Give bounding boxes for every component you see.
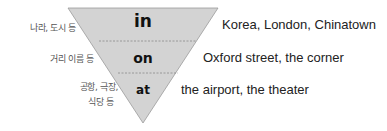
category-label-at-line1: 공항, 극장, — [40, 80, 118, 93]
category-label-in: 나라, 도시 등 — [4, 21, 76, 34]
category-label-at-line2: 식당 등 — [40, 95, 114, 108]
examples-on: Oxford street, the corner — [203, 50, 344, 65]
preposition-in: in — [123, 11, 163, 31]
examples-in: Korea, London, Chinatown — [222, 17, 376, 32]
examples-at: the airport, the theater — [181, 82, 309, 97]
preposition-at: at — [123, 83, 163, 97]
preposition-on: on — [123, 50, 163, 66]
category-label-on: 거리 이름 등 — [14, 52, 94, 65]
